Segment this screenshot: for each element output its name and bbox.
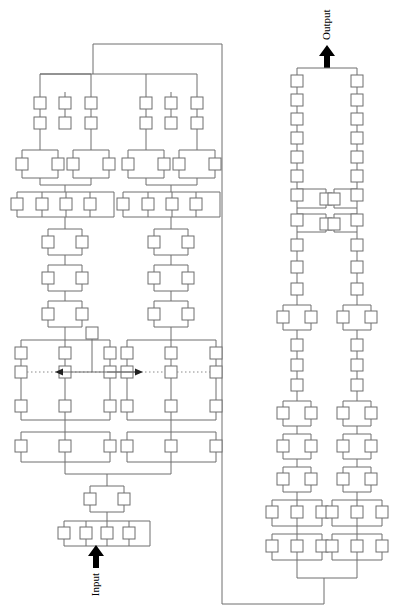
node [305, 440, 317, 452]
node [365, 473, 377, 485]
node [191, 117, 203, 129]
node [148, 236, 160, 248]
node [291, 261, 303, 273]
node [142, 198, 154, 210]
node [122, 158, 134, 170]
output-arrow-group [319, 45, 335, 68]
node [277, 407, 289, 419]
node [351, 170, 363, 182]
node [337, 473, 349, 485]
node [305, 311, 317, 323]
node [59, 400, 71, 412]
right-arrow-icon [135, 369, 143, 376]
node [351, 214, 363, 226]
node [291, 214, 303, 226]
node [209, 158, 221, 170]
node [15, 347, 27, 359]
node [305, 473, 317, 485]
node [121, 440, 133, 452]
node [121, 347, 133, 359]
node [191, 97, 203, 109]
node [190, 198, 202, 210]
input-arrow-group [88, 545, 104, 568]
node [165, 400, 177, 412]
right-network: Output [266, 9, 388, 578]
node [15, 400, 27, 412]
node [305, 407, 317, 419]
node [351, 132, 363, 144]
node [351, 239, 363, 251]
node [328, 218, 340, 230]
node [326, 540, 338, 552]
left-diamond-2 [42, 265, 88, 301]
node [291, 339, 303, 351]
node [165, 440, 177, 452]
node [365, 311, 377, 323]
node [85, 97, 97, 109]
node [291, 94, 303, 106]
node [15, 366, 27, 378]
node [351, 75, 363, 87]
node [351, 113, 363, 125]
input-arrow-icon [88, 545, 104, 568]
node [351, 339, 363, 351]
diagram-canvas: Input Output [0, 0, 394, 614]
node [291, 189, 303, 201]
node [182, 236, 194, 248]
node [15, 440, 27, 452]
left-network: Input [11, 44, 222, 596]
node [104, 440, 116, 452]
node [291, 113, 303, 125]
node [34, 117, 46, 129]
node [328, 193, 340, 205]
node [117, 198, 129, 210]
node [59, 440, 71, 452]
node [351, 283, 363, 295]
node [16, 158, 28, 170]
node [365, 440, 377, 452]
node [165, 97, 177, 109]
node [52, 158, 64, 170]
right-network-right-chain [326, 75, 388, 578]
node [351, 94, 363, 106]
left-mesh-block [15, 340, 116, 432]
node [76, 236, 88, 248]
node [60, 198, 72, 210]
node [182, 272, 194, 284]
node [76, 308, 88, 320]
node [365, 407, 377, 419]
node [376, 540, 388, 552]
node [59, 347, 71, 359]
node [85, 117, 97, 129]
left-upper-grid [34, 74, 97, 150]
node [166, 198, 178, 210]
node [165, 366, 177, 378]
node [84, 198, 96, 210]
left-network-input-merge [58, 474, 171, 546]
node [165, 347, 177, 359]
node [148, 308, 160, 320]
node [101, 527, 113, 539]
node [165, 117, 177, 129]
block-diagram: Input Output [0, 0, 394, 614]
node [140, 117, 152, 129]
left-pair-block-1 [16, 150, 115, 192]
node [59, 97, 71, 109]
node [351, 261, 363, 273]
node [123, 527, 135, 539]
node [291, 151, 303, 163]
node [11, 198, 23, 210]
node [103, 158, 115, 170]
left-network-right-subtree [117, 74, 222, 474]
node [210, 347, 222, 359]
node [376, 506, 388, 518]
node [291, 75, 303, 87]
node [42, 308, 54, 320]
node [277, 311, 289, 323]
node [210, 440, 222, 452]
node [291, 359, 303, 371]
node [67, 158, 79, 170]
node [266, 506, 278, 518]
node [291, 132, 303, 144]
node [326, 506, 338, 518]
